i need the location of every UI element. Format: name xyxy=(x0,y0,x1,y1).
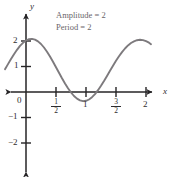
x-tick-label-one-half: 1 2 xyxy=(51,98,61,115)
x-tick-label-two: 2 xyxy=(143,100,148,109)
y-axis-label: y xyxy=(30,2,34,11)
y-tick-label-neg2: −2 xyxy=(8,138,18,147)
origin-label: 0 xyxy=(17,96,22,105)
graph-figure: Amplitude = 2 Period = 2 2 1 −1 −2 0 1 2… xyxy=(0,0,175,177)
y-tick-label-2: 2 xyxy=(13,36,18,45)
fraction-denominator: 2 xyxy=(111,106,121,115)
period-annotation: Period = 2 xyxy=(56,23,92,32)
y-tick-label-1: 1 xyxy=(14,61,19,70)
fraction-numerator: 3 xyxy=(111,98,121,106)
x-axis-label: x xyxy=(163,87,167,96)
x-tick-label-three-halves: 3 2 xyxy=(111,98,121,115)
y-tick-label-neg1: −1 xyxy=(8,112,18,121)
x-tick-label-one: 1 xyxy=(83,100,88,109)
fraction-denominator: 2 xyxy=(51,106,61,115)
fraction-numerator: 1 xyxy=(51,98,61,106)
amplitude-annotation: Amplitude = 2 xyxy=(56,11,106,20)
